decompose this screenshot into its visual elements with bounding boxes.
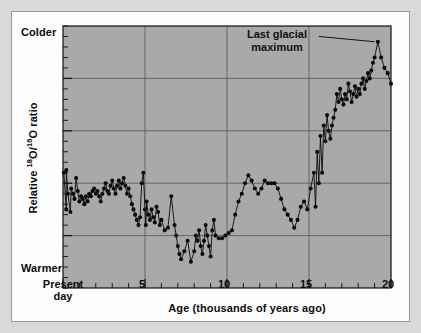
figure-card: Colder Warmer Relative 18O/16O ratio Pre… [11,11,410,322]
y-axis-warmer-label: Warmer [21,262,62,274]
annotation-lgm-line1: Last glacial [224,28,330,41]
y-axis-title-suffix: O ratio [27,102,39,138]
y-axis-title-prefix: Relative [27,167,39,213]
y-axis-sup-18: 18 [25,159,34,168]
y-axis-sup-16: 16 [25,139,34,148]
y-axis-title-mid: O/ [27,147,39,159]
x-tick-present-line2: day [31,290,95,302]
annotation-lgm-line2: maximum [224,41,330,54]
y-axis-colder-label: Colder [21,26,56,38]
y-axis-title: Relative 18O/16O ratio [27,98,39,218]
x-tick-label-present-day: Present day [31,278,95,302]
annotation-last-glacial-maximum: Last glacial maximum [224,28,330,54]
x-axis-title: Age (thousands of years ago) [132,302,362,314]
x-tick-label-15: 15 [294,278,318,290]
oxygen-isotope-chart: Colder Warmer Relative 18O/16O ratio Pre… [12,12,411,323]
chart-canvas [12,12,411,323]
x-tick-label-20: 20 [376,278,400,290]
x-tick-label-10: 10 [212,278,236,290]
x-tick-label-5: 5 [130,278,154,290]
x-tick-present-line1: Present [31,278,95,290]
